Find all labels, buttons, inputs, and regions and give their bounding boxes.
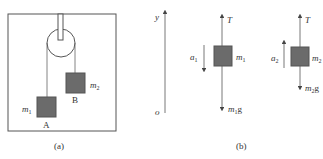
tension-label-1: T xyxy=(227,15,233,25)
pulley-rod xyxy=(58,14,63,40)
caption-b: (b) xyxy=(236,141,247,151)
mass-label-1: m1 xyxy=(236,52,246,63)
tension-label-2: T xyxy=(305,15,311,25)
origin-label: o xyxy=(155,107,160,117)
free-body-1: T m1 a1 m1g xyxy=(190,15,246,115)
block-b xyxy=(66,73,85,93)
block-1 xyxy=(214,46,232,66)
atwood-machine-diagram: m1 A m2 B (a) y o T m1 a1 m1g T m2 a xyxy=(0,0,323,159)
block-2 xyxy=(291,47,309,66)
block-b-letter: B xyxy=(72,95,78,105)
figure-a: m1 A m2 B (a) xyxy=(8,14,116,151)
block-a xyxy=(37,97,56,117)
accel-label-2: a2 xyxy=(271,53,279,64)
mass-label-a: m1 xyxy=(22,104,32,115)
weight-label-1: m1g xyxy=(228,104,243,115)
mass-label-2: m2 xyxy=(312,53,322,64)
figure-b: y o T m1 a1 m1g T m2 a2 m2g (b) xyxy=(154,12,322,151)
block-a-letter: A xyxy=(43,120,50,130)
weight-label-2: m2g xyxy=(305,83,320,94)
y-axis-label: y xyxy=(154,12,159,22)
accel-label-1: a1 xyxy=(190,52,198,63)
mass-label-b: m2 xyxy=(90,80,100,91)
caption-a: (a) xyxy=(54,141,64,151)
free-body-2: T m2 a2 m2g xyxy=(271,15,322,94)
